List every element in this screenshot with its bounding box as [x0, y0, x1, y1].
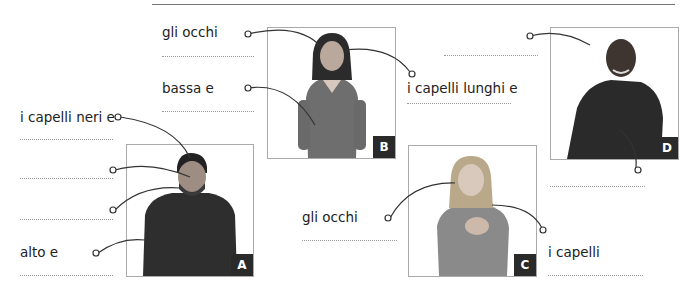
connector-lines	[0, 0, 687, 295]
